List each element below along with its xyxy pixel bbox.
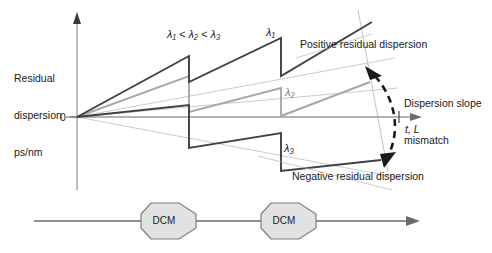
dcm-module-2-label: DCM bbox=[264, 215, 304, 226]
link-line-arrowhead bbox=[406, 216, 420, 226]
trace-lambda2 bbox=[77, 76, 370, 117]
mismatch-line1: Dispersion slope bbox=[404, 97, 482, 109]
slope-mismatch-arrowhead-bottom bbox=[380, 152, 396, 168]
guide-lower bbox=[77, 117, 400, 178]
positive-residual-dispersion-label: Positive residual dispersion bbox=[300, 38, 427, 50]
trace-lambda3 bbox=[77, 105, 381, 171]
slope-mismatch-arrowhead-top bbox=[365, 66, 382, 80]
x-axis-label: t, L bbox=[405, 123, 420, 135]
envelope-guide-lines bbox=[77, 58, 400, 178]
dispersion-slope-mismatch-label: Dispersion slope mismatch bbox=[404, 72, 482, 159]
lambda-ordering-annotation: λ₁ < λ₂ < λ₃ bbox=[167, 28, 220, 41]
negative-residual-dispersion-label: Negative residual dispersion bbox=[292, 170, 424, 182]
mismatch-line2: mismatch bbox=[404, 134, 482, 146]
y-axis-zero-label: 0 bbox=[60, 111, 66, 123]
trace-label-lambda2: λ₂ bbox=[285, 86, 295, 99]
trace-label-lambda1: λ₁ bbox=[266, 26, 275, 39]
dcm-module-1-label: DCM bbox=[144, 215, 184, 226]
y-axis-label-line2: dispersion bbox=[14, 109, 62, 121]
y-axis-label-line1: Residual bbox=[14, 72, 62, 84]
y-axis-label-line3: ps/nm bbox=[14, 146, 62, 158]
slope-mismatch-arrow bbox=[375, 76, 395, 154]
y-axis-label: Residual dispersion ps/nm bbox=[14, 47, 62, 171]
y-axis-arrowhead bbox=[73, 12, 81, 24]
guide-upper bbox=[77, 58, 395, 117]
trace-label-lambda3: λ₃ bbox=[284, 142, 294, 155]
